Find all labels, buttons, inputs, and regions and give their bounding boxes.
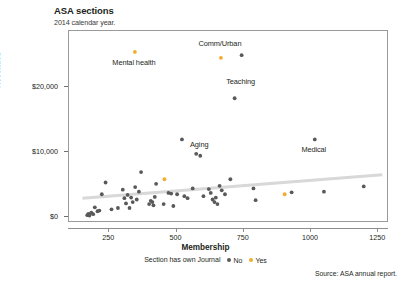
data-point (93, 205, 97, 209)
data-point (126, 193, 130, 197)
source-note: Source: ASA annual report. (315, 270, 397, 277)
data-point (180, 138, 184, 142)
x-axis-line (68, 228, 388, 229)
data-point (162, 202, 166, 206)
point-label: Teaching (226, 77, 255, 86)
data-point (186, 196, 190, 200)
y-axis-label: Revenues (0, 52, 2, 88)
data-point (228, 177, 232, 181)
data-point (124, 202, 128, 206)
data-point (240, 53, 244, 57)
data-point (154, 182, 158, 186)
data-point (122, 196, 126, 200)
x-tick-label: 1000 (290, 233, 330, 242)
legend-swatch (249, 258, 253, 262)
x-tick-mark (108, 228, 109, 232)
data-point (133, 50, 137, 54)
y-tick-mark (64, 151, 68, 152)
data-point (129, 196, 133, 200)
data-point (121, 188, 125, 192)
data-point (290, 190, 294, 194)
data-point (313, 138, 317, 142)
x-tick-mark (310, 228, 311, 232)
data-point (191, 186, 195, 190)
point-label: Medical (301, 145, 326, 154)
data-point (152, 203, 156, 207)
data-point (254, 198, 258, 202)
data-point (135, 198, 139, 202)
data-point (116, 206, 120, 210)
data-point (169, 192, 173, 196)
x-axis-label: Membership (0, 243, 411, 252)
data-point (198, 154, 202, 158)
data-point (153, 195, 157, 199)
data-point (220, 188, 224, 192)
y-tick-label: $10,000 (10, 147, 58, 156)
x-tick-label: 250 (88, 233, 128, 242)
data-point (223, 192, 227, 196)
x-tick-label: 1250 (357, 233, 397, 242)
data-point (128, 206, 132, 210)
data-point (216, 202, 220, 206)
data-point (163, 177, 167, 181)
data-point (150, 200, 154, 204)
data-point (202, 194, 206, 198)
data-point (252, 186, 256, 190)
x-tick-mark (377, 228, 378, 232)
data-point (218, 184, 222, 188)
legend: Section has own JournalNoYes (0, 256, 411, 264)
chart-page: ASA sections 2014 calendar year. Revenue… (0, 0, 411, 285)
data-point (100, 192, 104, 196)
data-point (175, 192, 179, 196)
point-label: Mental health (112, 58, 155, 67)
data-point (219, 56, 223, 60)
legend-label: Yes (255, 257, 266, 264)
data-point (139, 170, 143, 174)
page-subtitle: 2014 calendar year. (54, 18, 115, 27)
x-tick-label: 750 (223, 233, 263, 242)
data-point (362, 185, 366, 189)
legend-label: No (233, 257, 242, 264)
y-tick-mark (64, 86, 68, 87)
page-title: ASA sections (54, 5, 114, 16)
data-point (91, 212, 95, 216)
data-point (207, 187, 211, 191)
legend-swatch (227, 258, 231, 262)
data-point (194, 152, 198, 156)
data-point (131, 200, 135, 204)
legend-caption: Section has own Journal (144, 256, 220, 263)
y-tick-label: $20,000 (10, 82, 58, 91)
data-point (214, 196, 218, 200)
data-point (97, 209, 101, 213)
data-point (110, 207, 114, 211)
y-tick-mark (64, 216, 68, 217)
data-point (182, 194, 186, 198)
data-point (104, 181, 108, 185)
data-point (133, 185, 137, 189)
x-tick-mark (243, 228, 244, 232)
x-tick-label: 500 (156, 233, 196, 242)
data-point (233, 96, 237, 100)
data-point (283, 192, 287, 196)
data-point (171, 204, 175, 208)
data-point (322, 190, 326, 194)
data-point (137, 190, 141, 194)
point-label: Comm/Urban (198, 39, 241, 48)
data-point (147, 202, 151, 206)
point-label: Aging (190, 140, 208, 149)
data-point (209, 191, 213, 195)
y-tick-label: $0 (10, 212, 58, 221)
x-tick-mark (176, 228, 177, 232)
